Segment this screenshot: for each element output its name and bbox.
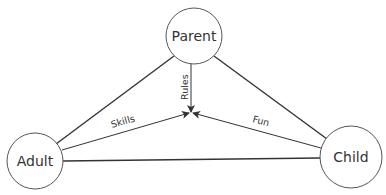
edge-parent-adult bbox=[56, 56, 174, 144]
label-skills: Skills bbox=[110, 113, 137, 130]
edge-parent-child bbox=[214, 56, 327, 139]
label-fun: Fun bbox=[251, 113, 270, 128]
node-parent: Parent bbox=[166, 8, 222, 64]
node-child: Child bbox=[320, 126, 382, 188]
node-child-label: Child bbox=[333, 149, 368, 165]
node-adult: Adult bbox=[7, 133, 63, 189]
node-parent-label: Parent bbox=[172, 28, 217, 44]
relationship-diagram: Rules Skills Fun Parent Adult Child bbox=[0, 0, 386, 195]
label-rules: Rules bbox=[179, 74, 190, 100]
edge-adult-child bbox=[63, 158, 320, 161]
node-adult-label: Adult bbox=[17, 153, 54, 169]
